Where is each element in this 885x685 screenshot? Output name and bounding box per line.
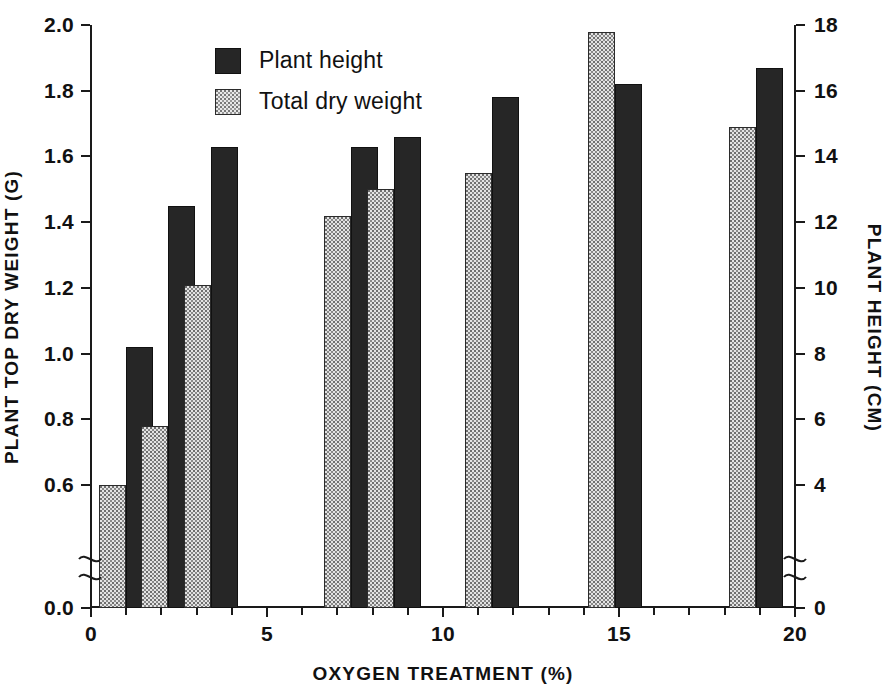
right-tick-label-18: 18 bbox=[814, 14, 864, 35]
right-tick-label-8: 8 bbox=[814, 343, 864, 364]
left-tick-1.0 bbox=[81, 353, 90, 355]
bar-total-dry-weight-6 bbox=[588, 32, 615, 608]
x-tick-17 bbox=[688, 608, 690, 615]
left-tick-0.0 bbox=[81, 607, 90, 609]
right-axis-break-icon bbox=[782, 547, 808, 591]
right-tick-18 bbox=[796, 24, 805, 26]
plot-area: 0.00.60.81.01.21.41.61.82.0 046810121416… bbox=[90, 25, 796, 608]
x-tick-label-20: 20 bbox=[765, 623, 825, 644]
legend-swatch-plant-height bbox=[215, 48, 241, 74]
right-tick-4 bbox=[796, 484, 805, 486]
right-tick-label-0: 0 bbox=[814, 597, 864, 618]
right-tick-0 bbox=[796, 607, 805, 609]
x-tick-1 bbox=[125, 608, 127, 615]
left-tick-2.0 bbox=[81, 24, 90, 26]
left-tick-label-1.6: 1.6 bbox=[16, 145, 74, 166]
left-tick-1.8 bbox=[81, 90, 90, 92]
legend: Plant height Total dry weight bbox=[215, 47, 422, 129]
bar-total-dry-weight-3 bbox=[324, 216, 351, 608]
x-tick-14 bbox=[583, 608, 585, 615]
x-tick-20 bbox=[794, 608, 796, 617]
x-tick-3 bbox=[196, 608, 198, 615]
bar-total-dry-weight-2 bbox=[184, 285, 211, 608]
x-tick-11 bbox=[477, 608, 479, 615]
left-axis-break-icon bbox=[77, 547, 103, 591]
bar-plant-height-7 bbox=[756, 68, 783, 608]
bar-total-dry-weight-5 bbox=[465, 173, 492, 608]
x-tick-16 bbox=[653, 608, 655, 615]
bar-total-dry-weight-1 bbox=[141, 426, 168, 608]
left-tick-1.6 bbox=[81, 155, 90, 157]
x-axis-title: OXYGEN TREATMENT (%) bbox=[312, 663, 573, 685]
legend-label-plant-height: Plant height bbox=[259, 47, 383, 74]
left-tick-label-1.8: 1.8 bbox=[16, 80, 74, 101]
x-tick-10 bbox=[442, 608, 444, 617]
x-tick-0 bbox=[90, 608, 92, 617]
legend-item-total-dry-weight: Total dry weight bbox=[215, 88, 422, 115]
right-tick-label-14: 14 bbox=[814, 145, 864, 166]
x-tick-7 bbox=[336, 608, 338, 615]
right-tick-label-6: 6 bbox=[814, 408, 864, 429]
right-tick-label-12: 12 bbox=[814, 211, 864, 232]
left-axis-title: PLANT TOP DRY WEIGHT (G) bbox=[1, 169, 23, 463]
left-tick-label-2.0: 2.0 bbox=[16, 14, 74, 35]
right-tick-16 bbox=[796, 90, 805, 92]
x-tick-8 bbox=[372, 608, 374, 615]
legend-swatch-total-dry-weight bbox=[215, 89, 241, 115]
left-tick-label-1.0: 1.0 bbox=[16, 343, 74, 364]
legend-label-total-dry-weight: Total dry weight bbox=[259, 88, 422, 115]
right-tick-12 bbox=[796, 221, 805, 223]
x-tick-12 bbox=[512, 608, 514, 615]
bar-plant-height-6 bbox=[615, 84, 642, 608]
right-tick-10 bbox=[796, 287, 805, 289]
x-tick-label-15: 15 bbox=[589, 623, 649, 644]
bar-total-dry-weight-4 bbox=[367, 189, 394, 608]
x-tick-2 bbox=[160, 608, 162, 615]
right-axis-line bbox=[794, 25, 796, 608]
x-tick-6 bbox=[301, 608, 303, 615]
left-tick-label-1.2: 1.2 bbox=[16, 277, 74, 298]
bar-total-dry-weight-0 bbox=[99, 485, 126, 608]
bar-plant-height-4 bbox=[394, 137, 421, 608]
x-tick-9 bbox=[407, 608, 409, 615]
right-tick-label-4: 4 bbox=[814, 474, 864, 495]
left-tick-1.4 bbox=[81, 221, 90, 223]
x-tick-15 bbox=[618, 608, 620, 617]
right-tick-14 bbox=[796, 155, 805, 157]
left-tick-label-0.8: 0.8 bbox=[16, 408, 74, 429]
bar-plant-height-5 bbox=[492, 97, 519, 608]
x-tick-label-0: 0 bbox=[61, 623, 121, 644]
legend-item-plant-height: Plant height bbox=[215, 47, 422, 74]
left-tick-label-0.6: 0.6 bbox=[16, 474, 74, 495]
left-tick-label-1.4: 1.4 bbox=[16, 211, 74, 232]
left-axis-line bbox=[90, 25, 92, 608]
right-axis-title: PLANT HEIGHT (CM) bbox=[863, 224, 885, 432]
left-tick-label-0.0: 0.0 bbox=[16, 597, 74, 618]
bar-total-dry-weight-7 bbox=[729, 127, 756, 608]
x-tick-19 bbox=[759, 608, 761, 615]
right-tick-8 bbox=[796, 353, 805, 355]
left-tick-0.6 bbox=[81, 484, 90, 486]
x-tick-13 bbox=[548, 608, 550, 615]
x-tick-5 bbox=[266, 608, 268, 617]
bar-plant-height-2 bbox=[211, 147, 238, 608]
right-tick-label-10: 10 bbox=[814, 277, 864, 298]
x-tick-18 bbox=[724, 608, 726, 615]
left-tick-1.2 bbox=[81, 287, 90, 289]
x-tick-label-5: 5 bbox=[237, 623, 297, 644]
right-tick-6 bbox=[796, 418, 805, 420]
x-tick-label-10: 10 bbox=[413, 623, 473, 644]
left-tick-0.8 bbox=[81, 418, 90, 420]
x-tick-4 bbox=[231, 608, 233, 615]
right-tick-label-16: 16 bbox=[814, 80, 864, 101]
